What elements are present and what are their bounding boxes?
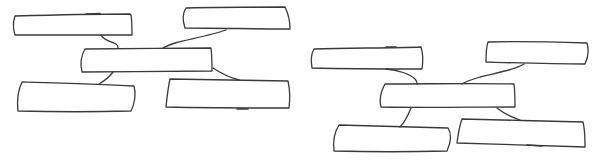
connector-top-right <box>163 30 226 48</box>
box-top-left <box>311 47 422 69</box>
connector-top-left <box>386 69 417 84</box>
central-box <box>380 84 515 108</box>
box-bottom-right <box>166 79 290 108</box>
connector-bottom-left <box>99 72 113 84</box>
mind-map-sketch-left <box>14 7 291 112</box>
hand-drawn-diagrams <box>0 0 600 160</box>
box-bottom-left <box>18 82 135 112</box>
box-bottom-left <box>334 125 451 152</box>
box-top-right <box>486 42 588 64</box>
box-top-left <box>14 14 133 35</box>
box-bottom-right <box>457 119 585 147</box>
connector-bottom-right <box>497 108 520 120</box>
connector-bottom-right <box>213 68 239 80</box>
connector-top-left <box>101 35 118 48</box>
connector-bottom-left <box>400 108 411 127</box>
box-top-right <box>183 7 290 29</box>
sketch-canvas <box>0 0 600 160</box>
mind-map-sketch-right <box>311 42 588 152</box>
central-box <box>81 48 212 72</box>
connector-top-right <box>462 64 524 84</box>
